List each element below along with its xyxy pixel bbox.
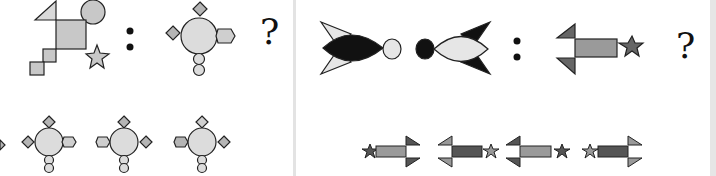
option-3 xyxy=(96,116,152,173)
figure-arrow-ship xyxy=(557,24,643,74)
figure-fish-light xyxy=(416,22,490,74)
option-2 xyxy=(438,136,499,167)
option-4 xyxy=(174,116,230,173)
left-puzzle-panel: ? xyxy=(0,0,293,176)
figure-b xyxy=(166,2,235,76)
separator-colon xyxy=(127,28,134,51)
left-puzzle-figures xyxy=(0,0,293,176)
figure-a xyxy=(30,0,109,75)
option-1 xyxy=(362,136,420,167)
question-mark: ? xyxy=(676,28,695,64)
question-mark: ? xyxy=(260,14,279,50)
option-4 xyxy=(582,136,642,167)
option-1 xyxy=(0,140,5,150)
right-puzzle-panel: ? xyxy=(296,0,710,176)
option-3 xyxy=(506,136,570,167)
figure-fish-dark xyxy=(321,22,401,74)
right-puzzle-figures xyxy=(296,0,710,176)
right-edge-divider xyxy=(710,0,716,176)
option-2 xyxy=(22,116,76,173)
separator-colon xyxy=(514,38,521,61)
